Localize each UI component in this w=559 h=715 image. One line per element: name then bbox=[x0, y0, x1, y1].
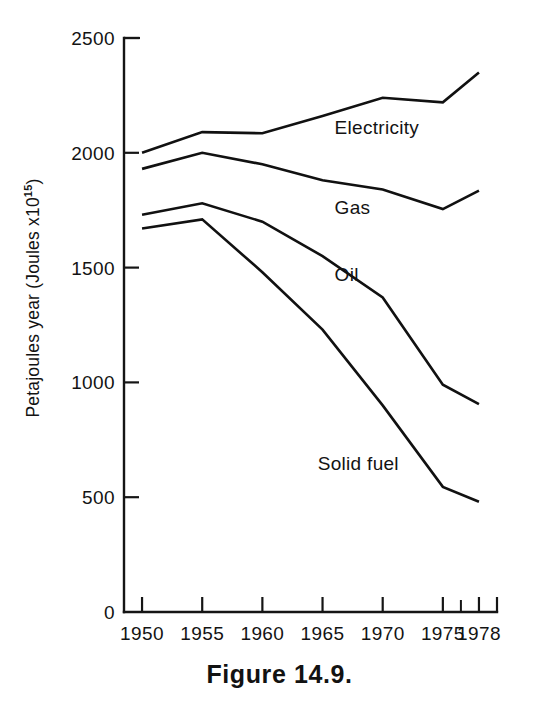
series-line-oil bbox=[142, 203, 479, 404]
series-label-gas: Gas bbox=[335, 197, 371, 218]
series-line-solid-fuel bbox=[142, 219, 479, 501]
x-axis-tick-label: 1965 bbox=[301, 623, 345, 644]
chart-series-lines bbox=[142, 72, 479, 501]
series-label-solid-fuel: Solid fuel bbox=[318, 453, 399, 474]
x-axis-tick-label: 1960 bbox=[240, 623, 284, 644]
x-axis-tick-label: 1950 bbox=[120, 623, 164, 644]
y-axis-tick-label: 2500 bbox=[71, 28, 115, 49]
chart-series-labels: ElectricityGasOilSolid fuel bbox=[318, 117, 420, 473]
series-line-electricity bbox=[142, 72, 479, 152]
y-axis-tick-label: 2000 bbox=[71, 143, 115, 164]
y-axis-tick-label: 0 bbox=[104, 602, 115, 623]
y-axis-tick-label: 500 bbox=[82, 487, 115, 508]
series-label-electricity: Electricity bbox=[335, 117, 420, 138]
x-axis-tick-label: 1978 bbox=[457, 623, 501, 644]
figure-caption: Figure 14.9. bbox=[0, 660, 559, 689]
series-line-gas bbox=[142, 153, 479, 209]
x-axis-ticks: 1950195519601965197019751978 bbox=[120, 597, 501, 644]
y-axis-tick-label: 1500 bbox=[71, 258, 115, 279]
y-axis-tick-label: 1000 bbox=[71, 372, 115, 393]
y-axis-ticks: 05001000150020002500 bbox=[71, 28, 139, 623]
line-chart: 05001000150020002500 1950195519601965197… bbox=[0, 0, 559, 660]
x-axis-tick-label: 1970 bbox=[361, 623, 405, 644]
x-axis-tick-label: 1955 bbox=[180, 623, 224, 644]
series-label-oil: Oil bbox=[335, 264, 359, 285]
chart-axes bbox=[124, 38, 497, 612]
figure-container: 05001000150020002500 1950195519601965197… bbox=[0, 0, 559, 715]
